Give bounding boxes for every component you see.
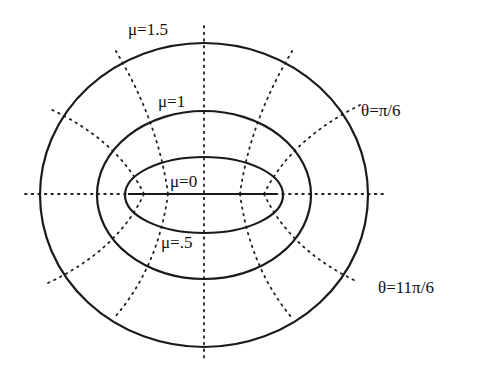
- label-mu-1: μ=1: [158, 92, 185, 111]
- label-mu-0-5: μ=.5: [161, 233, 192, 252]
- label-theta-11pi-6: θ=11π/6: [378, 278, 434, 297]
- label-mu-1-5: μ=1.5: [128, 20, 168, 39]
- label-theta-pi-6: θ=π/6: [361, 101, 401, 120]
- elliptic-coordinates-diagram: μ=1.5 μ=1 μ=0 μ=.5 θ=π/6 θ=11π/6: [0, 0, 478, 368]
- label-mu-0: μ=0: [170, 172, 197, 191]
